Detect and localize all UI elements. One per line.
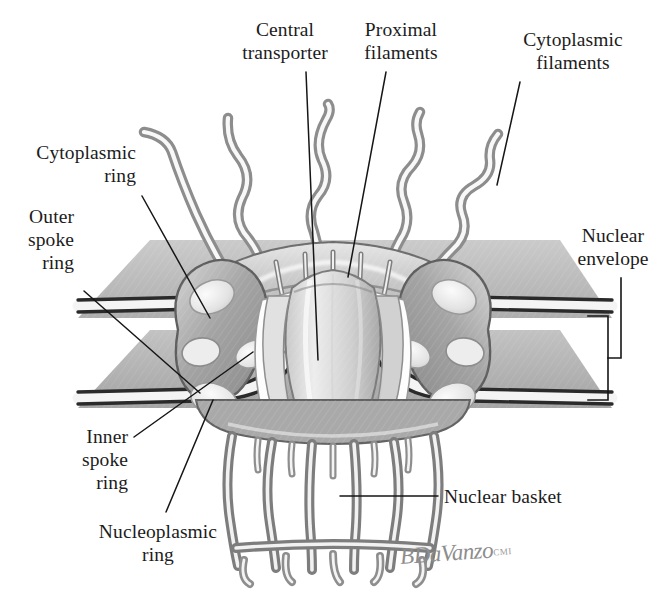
signature-credential: CMI — [493, 546, 512, 557]
leader-line-nucleoplasmic-ring — [166, 400, 213, 512]
label-central-transporter: Central transporter — [225, 18, 345, 64]
label-nuclear-envelope: Nuclear envelope — [563, 224, 663, 270]
label-nuclear-basket: Nuclear basket — [444, 485, 604, 508]
nucleoplasmic-ring — [196, 400, 470, 444]
label-proximal-filaments: Proximal filaments — [347, 18, 455, 64]
label-cytoplasmic-ring: Cytoplasmic ring — [8, 141, 136, 187]
label-inner-spoke-ring: Inner spoke ring — [62, 425, 128, 494]
signature-name: BDaVanzo — [399, 537, 494, 568]
label-outer-spoke-ring: Outer spoke ring — [8, 205, 74, 274]
label-cytoplasmic-filaments: Cytoplasmic filaments — [498, 28, 648, 74]
figure-canvas: Central transporterProximal filamentsCyt… — [0, 0, 666, 613]
label-nucleoplasmic-ring: Nucleoplasmic ring — [84, 520, 232, 566]
